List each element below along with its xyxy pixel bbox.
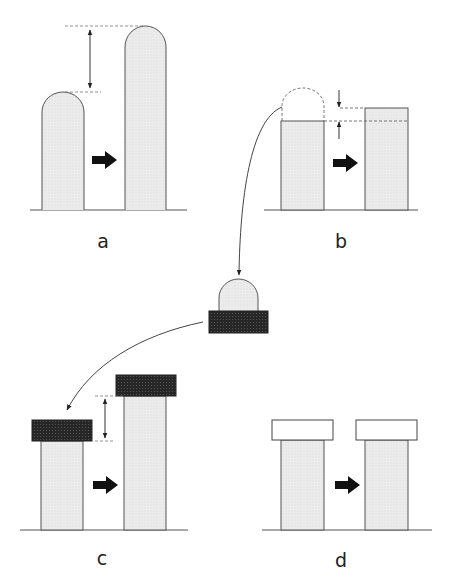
left-pillar (281, 440, 324, 530)
right-pillar (365, 440, 408, 530)
panel-a (30, 26, 187, 210)
panel-d (262, 420, 432, 530)
right-pillar (124, 396, 166, 530)
panel-label-c: c (97, 547, 107, 569)
detached-cap (209, 279, 268, 333)
transition-arrow-icon (335, 476, 360, 494)
tall-pillar (125, 26, 166, 210)
left-dark-cap (32, 420, 92, 441)
transition-arrow-icon (333, 154, 358, 172)
dark-block (209, 311, 268, 333)
right-flat-pillar (365, 108, 408, 210)
panel-label-a: a (97, 230, 109, 252)
transition-arrow-icon (92, 151, 117, 169)
transfer-curve-arrow (239, 107, 282, 275)
diagram-canvas (0, 0, 456, 587)
left-light-cap (272, 420, 333, 440)
removed-dome-outline (282, 88, 324, 121)
left-pillar (41, 441, 83, 530)
left-flat-pillar (281, 121, 324, 210)
right-light-cap (356, 420, 417, 440)
transition-arrow-icon (93, 476, 118, 494)
right-dark-cap (116, 375, 176, 396)
panel-label-b: b (335, 230, 347, 252)
panel-c (20, 375, 188, 530)
short-pillar (42, 92, 84, 210)
panel-label-d: d (335, 549, 347, 571)
dome (219, 279, 258, 311)
panel-b (264, 88, 418, 210)
